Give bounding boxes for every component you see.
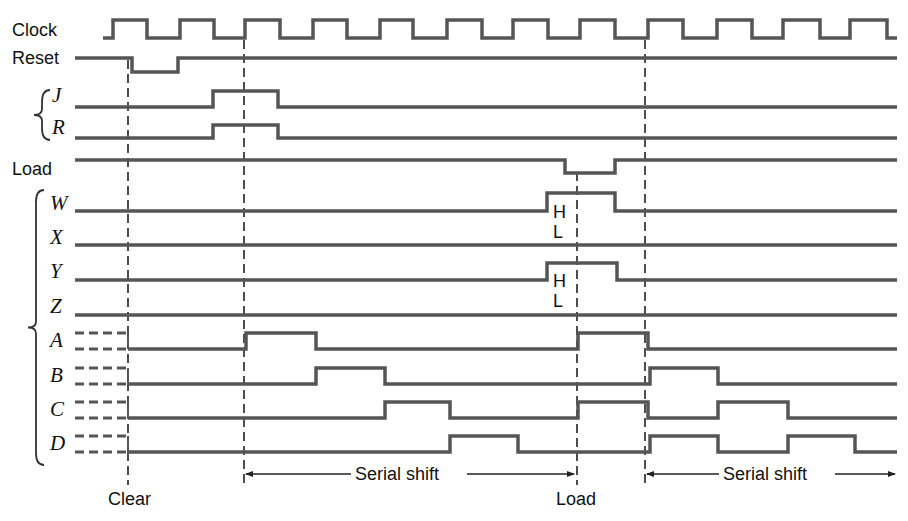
brace-inputs	[28, 190, 44, 465]
span-label: Serial shift	[723, 464, 807, 484]
signal-trace-reset	[75, 58, 897, 72]
high-label-y: H	[553, 271, 566, 291]
marker-label-load: Load	[556, 489, 596, 509]
signal-label-j: J	[52, 83, 63, 107]
low-label-y: L	[553, 291, 563, 311]
signal-label-r: R	[51, 115, 65, 139]
signal-label-b: B	[50, 363, 63, 387]
signal-trace-y	[75, 263, 897, 280]
signal-label-d: D	[49, 431, 65, 455]
span-label: Serial shift	[355, 464, 439, 484]
signal-label-reset: Reset	[12, 48, 59, 68]
signal-label-load: Load	[12, 159, 52, 179]
signal-labels: ClockResetJRLoadWXYZABCD	[12, 20, 70, 465]
brace-jr	[34, 90, 50, 140]
high-label-w: H	[553, 202, 566, 222]
signal-label-w: W	[50, 191, 70, 215]
arrowhead-left-icon	[245, 471, 253, 477]
signal-trace-clock	[103, 20, 897, 38]
annotations: ClearLoadHLHLSerial shiftSerial shift	[108, 202, 896, 509]
signal-label-x: X	[49, 225, 64, 249]
span-serial-shift-2: Serial shift	[646, 464, 896, 484]
signal-label-z: Z	[50, 294, 62, 318]
signal-traces	[75, 20, 897, 452]
low-label-w: L	[553, 222, 563, 242]
signal-trace-w	[75, 193, 897, 211]
signal-trace-r	[75, 125, 897, 138]
signal-trace-load	[75, 160, 897, 173]
signal-label-y: Y	[50, 259, 64, 283]
marker-label-clear: Clear	[108, 489, 151, 509]
timing-diagram: ClockResetJRLoadWXYZABCD ClearLoadHLHLSe…	[0, 0, 908, 521]
arrowhead-right-icon	[888, 471, 896, 477]
signal-label-a: A	[48, 328, 63, 352]
signal-label-c: C	[50, 397, 65, 421]
arrowhead-left-icon	[646, 471, 654, 477]
signal-trace-j	[75, 91, 897, 107]
signal-label-clock: Clock	[12, 20, 58, 40]
arrowhead-right-icon	[567, 471, 575, 477]
span-serial-shift-1: Serial shift	[245, 464, 575, 484]
